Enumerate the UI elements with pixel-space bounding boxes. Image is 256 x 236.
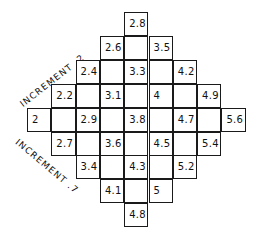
grid-cell-value: 3.4	[76, 155, 100, 179]
grid-cell-empty	[173, 84, 197, 108]
grid-cell-value: 3.1	[100, 84, 124, 108]
grid-cell-value: 5.6	[221, 108, 245, 132]
grid-cell-empty	[100, 155, 124, 179]
grid-cell-value: 4.9	[197, 84, 221, 108]
grid-cell-value: 2.4	[76, 60, 100, 84]
grid-cell-empty	[149, 60, 173, 84]
grid-cell-empty	[51, 108, 75, 132]
grid-cell-empty	[149, 155, 173, 179]
grid-cell-value: 3.5	[149, 36, 173, 60]
grid-cell-value: 4.8	[124, 203, 148, 227]
grid-cell-value: 2.2	[51, 84, 75, 108]
grid-cell-value: 5.4	[197, 132, 221, 156]
grid-cell-value: 5.2	[173, 155, 197, 179]
grid-cell-value: 3.8	[124, 108, 148, 132]
grid-cell-value: 4.2	[173, 60, 197, 84]
grid-cell-empty	[124, 179, 148, 203]
grid-cell-value: 4.5	[149, 132, 173, 156]
grid-cell-value: 4	[149, 84, 173, 108]
grid-cell-value: 2.8	[124, 12, 148, 36]
grid-cell-value: 4.1	[100, 179, 124, 203]
grid-cell-value: 2.6	[100, 36, 124, 60]
grid-cell-value: 2	[27, 108, 51, 132]
grid-cell-empty	[100, 60, 124, 84]
grid-cell-empty	[149, 108, 173, 132]
grid-cell-empty	[76, 84, 100, 108]
grid-cell-value: 2.7	[51, 132, 75, 156]
grid-cell-empty	[197, 108, 221, 132]
grid-cell-value: 3.3	[124, 60, 148, 84]
grid-cell-value: 4.7	[173, 108, 197, 132]
grid-cell-empty	[124, 36, 148, 60]
grid-cell-empty	[100, 108, 124, 132]
grid-cell-empty	[124, 84, 148, 108]
grid-cell-empty	[173, 132, 197, 156]
grid-cell-empty	[124, 132, 148, 156]
grid-cell-value: 3.6	[100, 132, 124, 156]
grid-cell-value: 5	[149, 179, 173, 203]
grid-cell-value: 4.3	[124, 155, 148, 179]
grid-cell-empty	[76, 132, 100, 156]
grid-cell-value: 2.9	[76, 108, 100, 132]
diamond-number-grid: 2.82.63.52.43.34.22.23.144.922.93.84.75.…	[0, 0, 256, 236]
